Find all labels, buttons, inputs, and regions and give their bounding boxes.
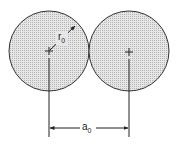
tangent-circles-diagram: r0 a0 bbox=[0, 0, 181, 150]
separation-label: a0 bbox=[82, 121, 92, 134]
